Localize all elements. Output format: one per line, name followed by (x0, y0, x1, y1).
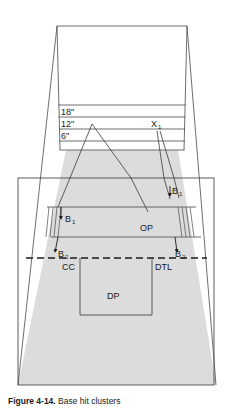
shaded-field-region (18, 150, 216, 385)
figure-caption-text: Base hit clusters (58, 396, 120, 406)
marker-dtl: DTL (155, 262, 172, 272)
marker-dp: DP (107, 291, 120, 301)
figure-caption: Figure 4-14. Base hit clusters (8, 396, 228, 407)
marker-op: OP (140, 223, 153, 233)
marker-x1: X 1 (151, 119, 162, 130)
marker-b1-left-base: B (65, 214, 71, 224)
band-label-12in: 12" (61, 119, 74, 129)
field-diagram: 18" 12" 6" X 1 (0, 0, 233, 410)
band-label-6in: 6" (61, 131, 69, 141)
marker-b1-right-base: B (172, 186, 178, 196)
band-label-18in: 18" (61, 107, 74, 117)
measurement-bands (58, 105, 185, 150)
marker-x1-base: X (151, 119, 157, 129)
figure-container: 18" 12" 6" X 1 (0, 0, 233, 410)
marker-cc: CC (62, 262, 75, 272)
upper-wall-box (57, 26, 187, 150)
figure-caption-label: Figure 4-14. (8, 396, 56, 406)
